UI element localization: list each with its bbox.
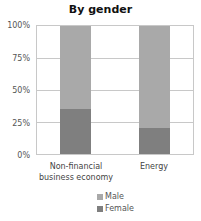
legend-item-male: Male (97, 191, 134, 203)
bar-non-financial (60, 26, 91, 154)
x-label-energy: Energy (124, 161, 184, 172)
y-tick-75: 75% (0, 53, 30, 62)
bar-segment-female (60, 109, 91, 154)
bar-segment-female (139, 128, 170, 154)
bar-segment-male (139, 26, 170, 128)
chart-title: By gender (0, 3, 201, 16)
legend: Male Female (97, 191, 134, 215)
bar-segment-male (60, 26, 91, 109)
bar-energy (139, 26, 170, 154)
legend-item-female: Female (97, 203, 134, 215)
y-tick-50: 50% (0, 86, 30, 95)
x-label-line: business economy (36, 172, 116, 183)
legend-label-female: Female (105, 203, 134, 215)
legend-swatch-female (97, 206, 103, 212)
legend-swatch-male (97, 194, 103, 200)
x-label-line: Energy (124, 161, 184, 172)
x-label-non-financial: Non-financial business economy (36, 161, 116, 183)
plot-area (36, 25, 194, 155)
legend-label-male: Male (105, 191, 124, 203)
y-tick-25: 25% (0, 118, 30, 127)
y-tick-0: 0% (0, 151, 30, 160)
x-label-line: Non-financial (36, 161, 116, 172)
y-tick-100: 100% (0, 21, 30, 30)
